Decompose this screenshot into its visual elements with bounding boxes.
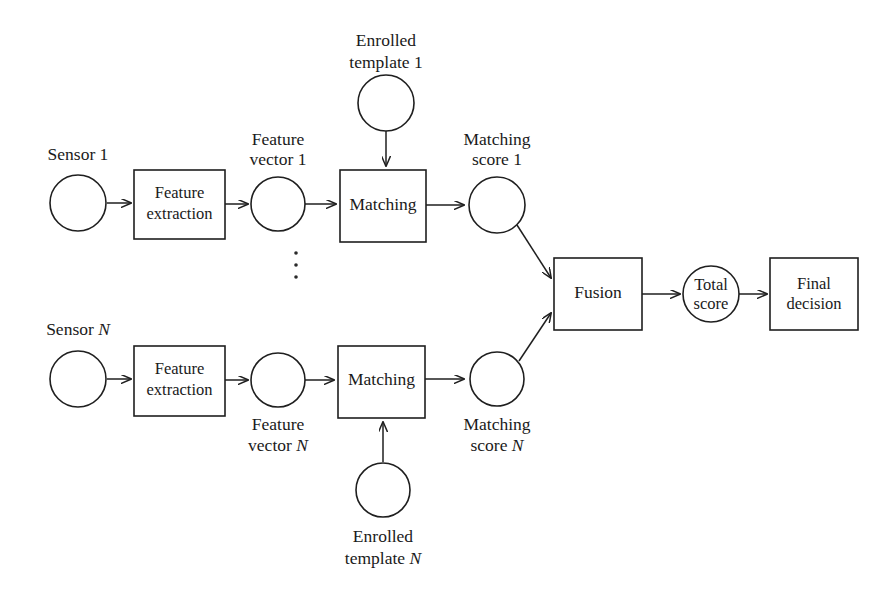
- edge-matchingscore1-to-fusion: [517, 225, 551, 278]
- sensor-n-label: Sensor N: [46, 319, 111, 339]
- vertical-ellipsis-icon: [294, 251, 298, 279]
- feature-extraction-1-label-line2: extraction: [147, 204, 213, 223]
- enrolled-template-1-node[interactable]: [358, 75, 414, 131]
- enrolled-template-n-label-line1: Enrolled: [353, 526, 414, 546]
- matching-1-label: Matching: [349, 194, 416, 214]
- matching-score-1-label-line2: score 1: [472, 149, 522, 169]
- final-decision-label-line1: Final: [797, 274, 831, 293]
- feature-vector-n-label-line2: vector N: [248, 435, 309, 455]
- enrolled-template-1-label-line1: Enrolled: [356, 30, 417, 50]
- sensor-1-node[interactable]: [50, 175, 106, 231]
- enrolled-template-1-label-line2: template 1: [349, 52, 422, 72]
- matching-score-1-node[interactable]: [469, 177, 525, 233]
- feature-vector-1-node[interactable]: [251, 177, 305, 231]
- sensor-1-label: Sensor 1: [48, 144, 109, 164]
- feature-vector-n-label-line1: Feature: [252, 414, 305, 434]
- enrolled-template-n-label-line2: template N: [345, 548, 423, 568]
- diagram-root: Sensor 1 Feature extraction Feature vect…: [0, 0, 893, 595]
- matching-score-n-label-line2: score N: [471, 435, 525, 455]
- sensor-n-node[interactable]: [50, 351, 106, 407]
- feature-extraction-n-label-line2: extraction: [147, 380, 213, 399]
- total-score-label-line1: Total: [694, 275, 728, 294]
- final-decision-label-line2: decision: [787, 294, 842, 313]
- diagram-canvas: Sensor 1 Feature extraction Feature vect…: [0, 0, 893, 595]
- fusion-label: Fusion: [574, 282, 622, 302]
- feature-extraction-n-label-line1: Feature: [155, 359, 204, 378]
- feature-vector-n-node[interactable]: [251, 353, 305, 407]
- matching-score-n-node[interactable]: [470, 352, 524, 406]
- matching-n-label: Matching: [348, 369, 415, 389]
- feature-extraction-1-label-line1: Feature: [155, 183, 204, 202]
- feature-vector-1-label-line2: vector 1: [250, 149, 307, 169]
- matching-score-n-label-line1: Matching: [463, 414, 530, 434]
- feature-vector-1-label-line1: Feature: [252, 129, 305, 149]
- matching-score-1-label-line1: Matching: [463, 129, 530, 149]
- edge-matchingscoren-to-fusion: [519, 313, 551, 361]
- enrolled-template-n-node[interactable]: [356, 463, 410, 517]
- total-score-label-line2: score: [694, 294, 729, 313]
